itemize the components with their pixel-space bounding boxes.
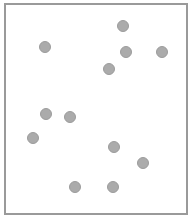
- circle-dot: [108, 141, 120, 153]
- circle-dot: [120, 46, 132, 58]
- circle-dot: [40, 108, 52, 120]
- circle-dot: [69, 181, 81, 193]
- circle-dot: [107, 181, 119, 193]
- circle-dot: [39, 41, 51, 53]
- circle-dot: [27, 132, 39, 144]
- circle-dot: [137, 157, 149, 169]
- circle-dot: [64, 111, 76, 123]
- circle-dot: [117, 20, 129, 32]
- circle-dot: [103, 63, 115, 75]
- diagram-frame: [4, 3, 188, 215]
- circle-dot: [156, 46, 168, 58]
